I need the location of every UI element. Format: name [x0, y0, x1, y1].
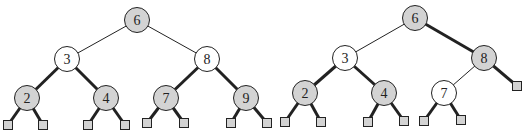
node-label: 6 [134, 13, 141, 28]
node-label: 3 [64, 52, 71, 67]
tree-node-4: 4 [94, 86, 119, 111]
nil-leaf-square [457, 116, 466, 125]
node-label: 3 [342, 51, 349, 66]
nil-leaf-square [180, 119, 189, 128]
node-label: 9 [243, 91, 250, 106]
tree-node-2: 2 [15, 86, 40, 111]
nil-leaf-square [84, 121, 93, 130]
tree-node-2: 2 [293, 81, 318, 106]
tree-node-4: 4 [372, 81, 397, 106]
nil-leaf-square [513, 82, 522, 91]
nil-leaf-square [39, 121, 48, 130]
tree-node-3: 3 [333, 46, 358, 71]
tree-node-6: 6 [403, 6, 428, 31]
tree-node-3: 3 [55, 47, 80, 72]
node-label: 7 [441, 86, 448, 101]
nil-leaf-square [121, 121, 130, 130]
node-label: 2 [24, 91, 31, 106]
tree-node-8: 8 [195, 47, 220, 72]
nil-leaf-square [143, 119, 152, 128]
node-label: 8 [204, 52, 211, 67]
node-label: 4 [381, 86, 388, 101]
red-black-tree-diagram: 6382479638247 [0, 0, 528, 136]
nil-leaf-square [263, 119, 272, 128]
node-label: 4 [103, 91, 110, 106]
nil-leaf-square [420, 117, 429, 126]
node-label: 2 [302, 86, 309, 101]
node-label: 8 [481, 51, 488, 66]
nil-leaf-square [4, 121, 13, 130]
tree-node-6: 6 [125, 8, 150, 33]
nil-leaf-square [227, 119, 236, 128]
nil-leaf-square [281, 118, 290, 127]
nil-leaf-square [317, 118, 326, 127]
tree-edges [8, 18, 517, 125]
tree-node-8: 8 [472, 46, 497, 71]
tree-node-9: 9 [234, 86, 259, 111]
tree-nodes: 6382479638247 [15, 6, 497, 111]
tree-node-7: 7 [154, 86, 179, 111]
nil-leaf-square [364, 118, 373, 127]
node-label: 7 [163, 91, 170, 106]
nil-leaf-square [400, 117, 409, 126]
node-label: 6 [412, 11, 419, 26]
tree-node-7: 7 [432, 81, 457, 106]
